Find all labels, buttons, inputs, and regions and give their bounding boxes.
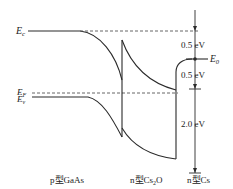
label-e0: E0 [209,54,220,65]
arrow-down-top [193,26,197,31]
energy-gap-mid: 0.5 eV [181,70,205,80]
valence-band-cs2o [122,128,176,159]
arrow-down-mid [193,84,197,89]
energy-gap-top: 0.5 eV [181,40,205,50]
valence-band-gaas [32,97,122,137]
arrow-down-bottom [193,168,197,173]
band-diagram: Ec EF Ev E0 0.5 eV 0.5 eV 2.0 eV p型GaAs … [0,0,233,189]
region-label-gaas: p型GaAs [50,175,84,185]
region-label-cs2o: n型Cs2O [130,175,163,186]
label-ec: Ec [15,25,26,38]
region-label-cs: n型Cs [187,175,211,185]
conduction-band-cs2o [122,40,176,90]
energy-gap-bottom: 2.0 eV [181,119,205,129]
conduction-band-gaas [28,31,122,80]
